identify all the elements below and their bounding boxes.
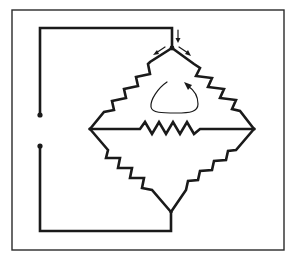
terminal-upper [37, 112, 42, 117]
resistor-bottom-left [90, 129, 171, 212]
circuit-diagram [0, 0, 296, 261]
current-in-arrow [176, 30, 181, 43]
loop-circulation-arrow-icon [151, 82, 198, 113]
resistor-bridge [90, 122, 254, 134]
terminal-lower [37, 143, 42, 148]
resistor-bottom-right [171, 129, 254, 212]
wire-feed-upper [40, 28, 172, 115]
resistor-top-right [172, 48, 254, 129]
